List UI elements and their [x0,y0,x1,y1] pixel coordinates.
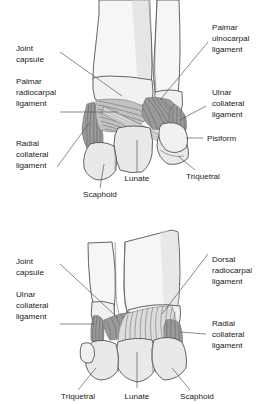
ulna-shaft [154,0,180,96]
label-scaphoid: Scaphoid [83,190,117,199]
label-dorsal-radiocarpal-line3: ligament [212,277,243,286]
label-joint-capsule-dorsal-line1: Joint [16,257,34,266]
label-joint-capsule-line1: Joint [16,44,34,53]
label-radial-collateral-dorsal-line2: collateral [212,330,245,339]
lunate-bone-dorsal [116,338,157,382]
label-radial-collateral-dorsal-line1: Radial [212,319,235,328]
label-triquetral-dorsal: Triquetral [61,392,95,401]
label-palmar-ulnocarpal-line3: ligament [212,45,243,54]
label-palmar-radiocarpal-line1: Palmar [16,77,42,86]
lunate-bone [114,126,153,173]
leader-triquetral-dorsal [78,368,96,390]
scaphoid-bone-dorsal [152,337,187,380]
label-palmar-radiocarpal-line2: radiocarpal [16,88,56,97]
label-ulnar-collateral-dorsal-line3: ligament [16,312,47,321]
label-dorsal-radiocarpal-line2: radiocarpal [212,266,252,275]
label-lunate-dorsal: Lunate [125,392,150,401]
label-radial-collateral-dorsal-line3: ligament [212,341,243,350]
carpal-bones-dorsal [80,337,186,382]
leader-ulnar-collateral [180,106,206,120]
label-radial-collateral-line2: collateral [16,150,49,159]
label-lunate: Lunate [125,174,150,183]
label-joint-capsule-dorsal-line2: capsule [16,268,44,277]
label-radial-collateral-line3: ligament [16,161,47,170]
label-ulnar-collateral-dorsal-line1: Ulnar [16,290,36,299]
label-scaphoid-dorsal: Scaphoid [180,392,214,401]
label-joint-capsule-line2: capsule [16,55,44,64]
label-palmar-ulnocarpal-line2: ulnocarpal [212,34,250,43]
label-pisiform: Pisiform [207,134,236,143]
label-palmar-radiocarpal-line3: ligament [16,99,47,108]
label-ulnar-collateral-line2: collateral [212,99,245,108]
label-ulnar-collateral-line3: ligament [212,110,243,119]
label-ulnar-collateral-line1: Ulnar [212,88,232,97]
label-palmar-ulnocarpal-line1: Palmar [212,23,238,32]
label-triquetral: Triquetral [186,172,220,181]
label-radial-collateral-line1: Radial [16,139,39,148]
pisiform-nub-dorsal [80,343,94,363]
dorsal-wrist-diagram: Joint capsule Ulnar collateral ligament … [0,202,270,404]
leader-radial-collateral-dorsal [180,332,206,334]
palmar-wrist-diagram: Joint capsule Palmar radiocarpal ligamen… [0,0,270,202]
scaphoid-bone [84,142,117,180]
label-dorsal-radiocarpal-line1: Dorsal [212,255,236,264]
label-ulnar-collateral-dorsal-line2: collateral [16,301,49,310]
